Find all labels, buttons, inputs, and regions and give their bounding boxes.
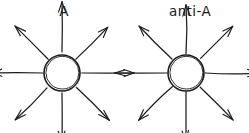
diagram-canvas: Aanti-A: [0, 0, 249, 133]
panel-a-label: A: [59, 3, 69, 19]
core-circle: [44, 55, 80, 91]
panel-anti-a-label: anti-A: [169, 3, 211, 19]
canvas-background: [0, 0, 249, 133]
core-circle: [168, 55, 204, 91]
